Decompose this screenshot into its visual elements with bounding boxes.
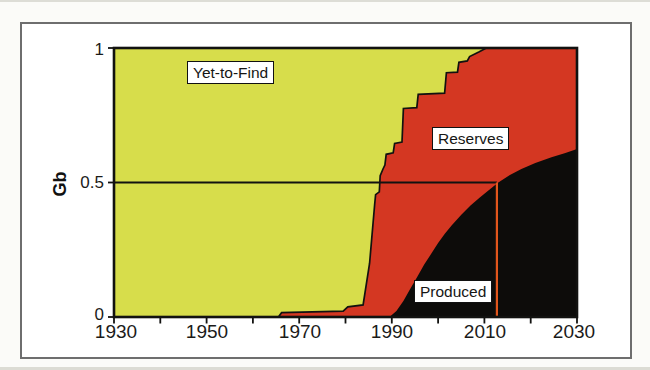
x-tick-label-1950: 1950 bbox=[177, 321, 237, 342]
y-tick-label-1: 1 bbox=[64, 40, 104, 60]
x-tick-label-1990: 1990 bbox=[362, 321, 422, 342]
label-reserves: Reserves bbox=[432, 127, 509, 150]
x-tick-label-2010: 2010 bbox=[455, 321, 515, 342]
y-tick-label-0.5: 0.5 bbox=[64, 173, 104, 193]
area-chart bbox=[84, 38, 591, 331]
scanned-figure-page: Gb 1 0.5 0 1930 1950 1970 1990 2010 2030… bbox=[0, 0, 650, 370]
label-yet-to-find: Yet-to-Find bbox=[187, 61, 274, 84]
x-tick-label-2030: 2030 bbox=[544, 321, 604, 342]
x-tick-label-1970: 1970 bbox=[270, 321, 330, 342]
x-tick-label-1930: 1930 bbox=[86, 321, 146, 342]
label-produced: Produced bbox=[414, 280, 492, 303]
